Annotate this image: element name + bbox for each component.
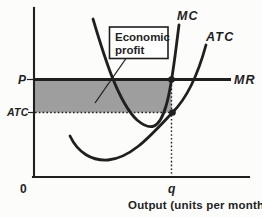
mc-mr-intersection-dot <box>168 76 175 83</box>
atc-axis-label: ATC <box>6 106 29 118</box>
economic-profit-figure: Economic profit MC ATC MR P ATC 0 q Outp… <box>0 0 262 217</box>
atc-label: ATC <box>205 30 234 44</box>
mc-label: MC <box>177 9 199 23</box>
quantity-label: q <box>168 182 176 196</box>
economic-profit-region <box>35 81 172 113</box>
annotation-line2: profit <box>115 44 145 56</box>
mr-label: MR <box>234 73 256 87</box>
annotation-line1: Economic <box>115 31 171 43</box>
x-axis-title: Output (units per month) <box>128 199 262 211</box>
price-axis-label: P <box>18 73 27 87</box>
atc-at-q-dot <box>169 109 176 116</box>
economic-profit-chart: Economic profit MC ATC MR P ATC 0 q Outp… <box>0 0 262 217</box>
origin-label: 0 <box>20 182 27 196</box>
